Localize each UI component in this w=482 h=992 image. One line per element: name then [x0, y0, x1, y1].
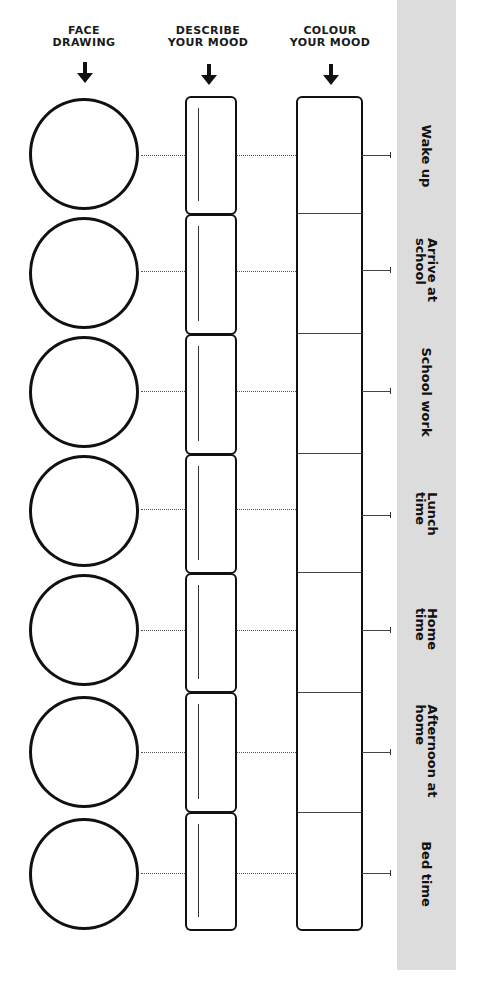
row-label-afternoon-at-home: Afternoon at home	[414, 704, 438, 797]
describe-mood-box[interactable]	[185, 692, 237, 813]
row-label-home-time: Home time	[414, 608, 438, 650]
connector-tick	[390, 388, 391, 394]
label-connector	[362, 752, 391, 753]
colour-mood-header: COLOUR YOUR MOOD	[270, 25, 390, 49]
dotted-connector	[237, 630, 296, 631]
row-divider	[298, 812, 361, 813]
colour-mood-column[interactable]	[296, 96, 363, 931]
face-drawing-circle[interactable]	[29, 217, 139, 329]
label-line: Bed time	[420, 841, 432, 907]
face-drawing-circle[interactable]	[29, 818, 139, 930]
face-drawing-circle[interactable]	[29, 696, 139, 808]
dotted-connector	[237, 271, 296, 272]
down-arrow-icon	[200, 64, 218, 86]
connector-tick	[390, 512, 391, 518]
writing-guide-line	[198, 346, 199, 441]
label-line: Wake up	[420, 125, 432, 188]
label-connector	[362, 270, 391, 271]
writing-guide-line	[198, 226, 199, 321]
header-line: DRAWING	[24, 37, 144, 49]
connector-tick	[390, 152, 391, 158]
face-drawing-header: FACE DRAWING	[24, 25, 144, 49]
label-line: School work	[420, 347, 432, 436]
label-connector	[362, 391, 391, 392]
label-connector	[362, 155, 391, 156]
face-drawing-circle[interactable]	[29, 336, 139, 448]
row-divider	[298, 572, 361, 573]
row-label-bed-time: Bed time	[420, 841, 432, 907]
header-line: YOUR MOOD	[148, 37, 268, 49]
row-divider	[298, 692, 361, 693]
dotted-connector	[237, 509, 296, 510]
header-line: YOUR MOOD	[270, 37, 390, 49]
connector-tick	[390, 749, 391, 755]
dotted-connector	[141, 752, 185, 753]
writing-guide-line	[198, 585, 199, 679]
describe-mood-box[interactable]	[185, 812, 237, 931]
dotted-connector	[141, 509, 185, 510]
describe-mood-box[interactable]	[185, 334, 237, 455]
dotted-connector	[237, 391, 296, 392]
writing-guide-line	[198, 108, 199, 201]
writing-guide-line	[198, 466, 199, 560]
dotted-connector	[141, 155, 185, 156]
row-label-wake-up: Wake up	[420, 125, 432, 188]
connector-tick	[390, 267, 391, 273]
down-arrow-icon	[76, 62, 94, 84]
row-divider	[298, 453, 361, 454]
describe-mood-box[interactable]	[185, 573, 237, 693]
face-drawing-circle[interactable]	[29, 455, 139, 567]
label-connector	[362, 873, 391, 874]
dotted-connector	[141, 391, 185, 392]
dotted-connector	[141, 630, 185, 631]
row-divider	[298, 333, 361, 334]
dotted-connector	[237, 155, 296, 156]
row-label-school-work: School work	[420, 347, 432, 436]
row-divider	[298, 213, 361, 214]
describe-mood-box[interactable]	[185, 214, 237, 335]
label-connector	[362, 630, 391, 631]
down-arrow-icon	[322, 64, 340, 86]
writing-guide-line	[198, 704, 199, 799]
dotted-connector	[237, 752, 296, 753]
describe-mood-box[interactable]	[185, 454, 237, 574]
describe-mood-box[interactable]	[185, 96, 237, 215]
connector-tick	[390, 627, 391, 633]
dotted-connector	[141, 873, 185, 874]
writing-guide-line	[198, 824, 199, 917]
describe-mood-header: DESCRIBE YOUR MOOD	[148, 25, 268, 49]
dotted-connector	[237, 873, 296, 874]
row-label-lunch-time: Lunch time	[414, 492, 438, 536]
label-connector	[362, 515, 391, 516]
row-label-arrive-at-school: Arrive at school	[414, 238, 438, 302]
face-drawing-circle[interactable]	[29, 98, 139, 210]
face-drawing-circle[interactable]	[29, 574, 139, 686]
dotted-connector	[141, 271, 185, 272]
connector-tick	[390, 870, 391, 876]
